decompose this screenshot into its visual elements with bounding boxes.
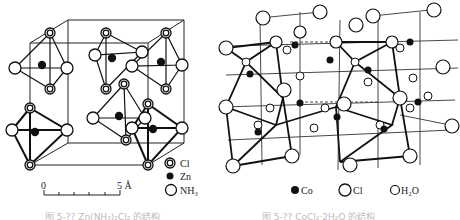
crystal-structure-diagram: Cl Zn NH₃ 0 5 Å — [0, 0, 460, 220]
legend-co-label: Co — [301, 185, 313, 196]
scale-end-label: 5 Å — [117, 180, 133, 191]
right-figure-caption: 图 5-?? CoCl₂·2H₂O 的结构 — [262, 210, 375, 220]
scale-start-label: 0 — [41, 180, 46, 191]
right-lattice — [222, 10, 458, 170]
scale-bar — [44, 190, 120, 195]
legend-nh3-label: NH₃ — [180, 185, 198, 196]
left-figure-caption: 图 5-?? Zn(NH₃)₂Cl₂ 的结构 — [45, 210, 160, 220]
legend-cl-label: Cl — [180, 158, 190, 169]
left-legend — [165, 158, 177, 196]
legend-cl2-label: Cl — [353, 185, 363, 196]
legend-h2o-label: H₂O — [401, 185, 419, 196]
legend-zn-label: Zn — [180, 171, 191, 182]
